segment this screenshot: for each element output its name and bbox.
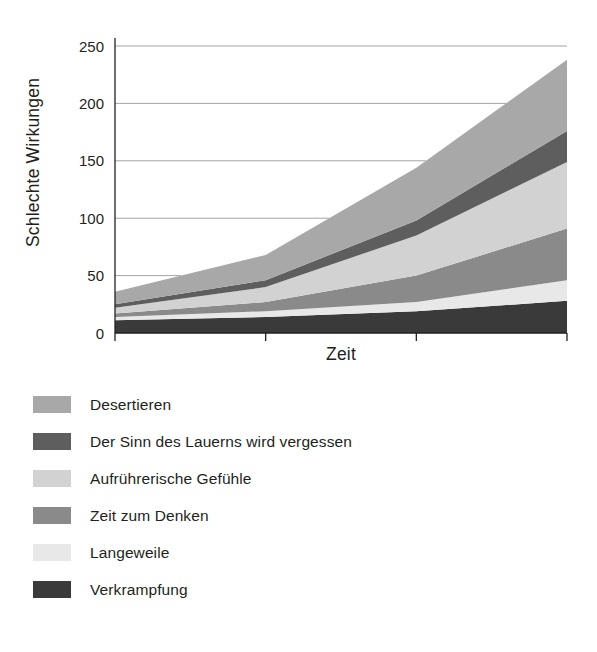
y-tick-label: 150 — [79, 152, 104, 169]
legend-item: Verkrampfung — [33, 571, 593, 608]
y-tick-label: 100 — [79, 210, 104, 227]
y-tick-label: 250 — [79, 38, 104, 55]
legend-item-label: Zeit zum Denken — [90, 507, 209, 525]
stacked-area-chart-figure: Schlechte Wirkungen 050100150200250 Zeit… — [0, 0, 597, 652]
legend-swatch-icon — [33, 507, 71, 524]
y-tick-label: 50 — [87, 267, 104, 284]
legend-item-label: Verkrampfung — [90, 581, 188, 599]
legend-swatch-icon — [33, 433, 71, 450]
legend-item: Desertieren — [33, 386, 593, 423]
legend-item: Der Sinn des Lauerns wird vergessen — [33, 423, 593, 460]
x-tick-marks-group — [115, 333, 567, 341]
legend-swatch-icon — [33, 544, 71, 561]
y-tick-label: 0 — [96, 325, 104, 342]
y-tick-labels-group: 050100150200250 — [79, 38, 104, 342]
chart-region: Schlechte Wirkungen 050100150200250 Zeit — [0, 0, 597, 378]
legend-item: Zeit zum Denken — [33, 497, 593, 534]
legend-item: Langeweile — [33, 534, 593, 571]
legend-swatch-icon — [33, 396, 71, 413]
legend-swatch-icon — [33, 581, 71, 598]
chart-legend: Desertieren Der Sinn des Lauerns wird ve… — [33, 386, 593, 608]
legend-item-label: Aufrührerische Gefühle — [90, 470, 252, 488]
legend-item-label: Der Sinn des Lauerns wird vergessen — [90, 433, 352, 451]
legend-swatch-icon — [33, 470, 71, 487]
legend-item: Aufrührerische Gefühle — [33, 460, 593, 497]
legend-item-label: Desertieren — [90, 396, 171, 414]
x-axis-title: Zeit — [115, 344, 567, 365]
plot-area: 050100150200250 — [0, 0, 597, 378]
legend-item-label: Langeweile — [90, 544, 169, 562]
area-series-group — [115, 60, 567, 333]
y-tick-label: 200 — [79, 95, 104, 112]
